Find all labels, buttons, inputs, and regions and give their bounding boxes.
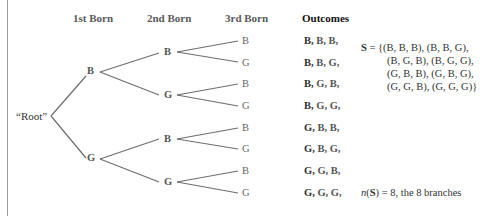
branch-root-b (51, 76, 86, 116)
node-l3-2: G (242, 57, 250, 69)
branch-root-g (51, 116, 86, 158)
header-outcomes: Outcomes (302, 12, 349, 24)
node-l3-4: G (242, 100, 250, 112)
node-l3-8: G (242, 187, 250, 199)
outcome-row: G, B, B, (304, 122, 339, 134)
outcome-row: B, B, G, (304, 57, 339, 69)
outcome-row: B, G, B, (304, 78, 339, 90)
header-2nd-born: 2nd Born (147, 12, 191, 24)
node-l3-1: B (242, 35, 249, 47)
node-l2-gb: B (164, 133, 171, 145)
node-l1-g: G (87, 152, 95, 164)
root-node: “Root” (16, 110, 47, 122)
node-l3-7: B (242, 165, 249, 177)
branch-b-g (100, 72, 159, 95)
branch-g-g (100, 159, 159, 182)
header-1st-born: 1st Born (73, 12, 113, 24)
node-l3-6: G (242, 143, 250, 155)
node-l2-bg: G (164, 89, 172, 101)
outcome-row: B, G, G, (304, 100, 340, 112)
node-l1-b: B (87, 65, 94, 77)
sample-space-set: S = {(B, B, B), (B, B, G), (B, G, B), (B… (361, 41, 477, 93)
header-3rd-born: 3rd Born (225, 12, 268, 24)
outcome-row: G, G, B, (304, 165, 340, 177)
node-l3-5: B (242, 122, 249, 134)
node-l2-bb: B (164, 46, 171, 58)
outcome-row: G, G, G, (304, 187, 342, 199)
node-l2-gg: G (164, 176, 172, 188)
branch-g-b (100, 139, 159, 159)
outcome-row: G, B, G, (304, 143, 340, 155)
outcome-row: B, B, B, (304, 35, 338, 47)
node-l3-3: B (242, 78, 249, 90)
branch-b-b (100, 53, 159, 72)
sample-space-count: n(S) = 8, the 8 branches (361, 187, 461, 198)
